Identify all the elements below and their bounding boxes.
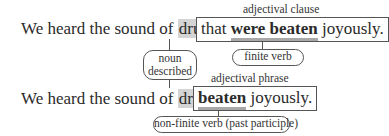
phrase-post: joyously.: [250, 88, 312, 107]
finite-verb-bubble-text: finite verb: [244, 50, 292, 62]
non-finite-verb-text: beaten: [198, 88, 246, 110]
sentence-2-lead: We heard the sound of: [21, 89, 174, 108]
finite-verb-text: were beaten: [231, 19, 318, 41]
adjectival-clause-label: adjectival clause: [243, 3, 319, 16]
adjectival-phrase-label: adjectival phrase: [211, 72, 289, 85]
clause-post: joyously.: [322, 19, 384, 38]
finite-verb-bubble: finite verb: [232, 49, 304, 66]
noun-bubble-line2: described: [144, 65, 196, 78]
noun-bubble-line1: noun: [144, 52, 196, 65]
noun-described-bubble: noun described: [143, 50, 197, 80]
sentence-1: We heard the sound of drums: [21, 19, 222, 39]
clause-pre: that: [201, 19, 227, 38]
noun-connector-bottom: [169, 79, 170, 88]
sentence-1-lead: We heard the sound of: [21, 19, 174, 38]
adjectival-phrase-box: beaten joyously.: [193, 86, 317, 111]
adjectival-clause-box: that were beaten joyously.: [196, 17, 389, 42]
non-finite-verb-bubble-text: non-finite verb (past participle): [154, 117, 298, 129]
non-finite-verb-bubble: non-finite verb (past participle): [153, 116, 290, 133]
